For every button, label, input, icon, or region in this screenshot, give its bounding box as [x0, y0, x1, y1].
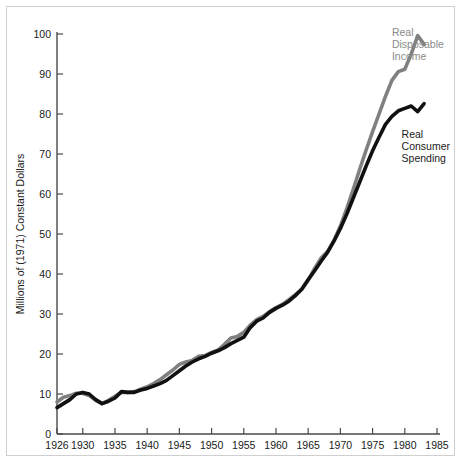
series-line-real-consumer-spending	[57, 104, 424, 408]
y-tick-label: 90	[39, 68, 51, 80]
y-tick-label: 0	[45, 428, 51, 440]
y-axis-title-text: Millions of (1971) Constant Dollars	[14, 154, 26, 314]
real-consumer-spending-label: RealConsumerSpending	[402, 128, 451, 164]
x-tick-label: 1945	[168, 439, 192, 451]
y-tick-label: 60	[39, 188, 51, 200]
x-tick-label: 1965	[297, 439, 321, 451]
series-layer	[57, 36, 424, 408]
x-tick-label: 1926	[45, 439, 69, 451]
y-tick-label: 20	[39, 348, 51, 360]
x-tick-label: 1975	[361, 439, 385, 451]
x-tick-label: 1960	[264, 439, 288, 451]
y-axis: 0102030405060708090100	[33, 28, 63, 440]
y-tick-label: 100	[33, 28, 51, 40]
x-tick-label: 1950	[200, 439, 224, 451]
real-disposable-income-label: RealDisposableIncome	[392, 26, 444, 62]
x-tick-label: 1980	[393, 439, 417, 451]
x-tick-label: 1935	[103, 439, 127, 451]
series-annotations: RealDisposableIncomeRealConsumerSpending	[392, 26, 451, 164]
chart-figure: 0102030405060708090100 19261930193519401…	[0, 0, 463, 470]
x-tick-label: 1970	[329, 439, 353, 451]
y-tick-label: 80	[39, 108, 51, 120]
y-tick-label: 10	[39, 388, 51, 400]
x-tick-label: 1940	[135, 439, 159, 451]
y-tick-label: 40	[39, 268, 51, 280]
y-axis-title: Millions of (1971) Constant Dollars	[14, 154, 26, 314]
line-chart-plot: 0102030405060708090100 19261930193519401…	[0, 0, 463, 470]
y-tick-label: 70	[39, 148, 51, 160]
x-tick-label: 1955	[232, 439, 256, 451]
x-tick-label: 1930	[71, 439, 95, 451]
x-tick-label: 1985	[425, 439, 449, 451]
x-axis: 1926193019351940194519501955196019651970…	[45, 428, 449, 451]
series-line-real-disposable-income	[57, 36, 424, 404]
y-tick-label: 30	[39, 308, 51, 320]
y-tick-label: 50	[39, 228, 51, 240]
